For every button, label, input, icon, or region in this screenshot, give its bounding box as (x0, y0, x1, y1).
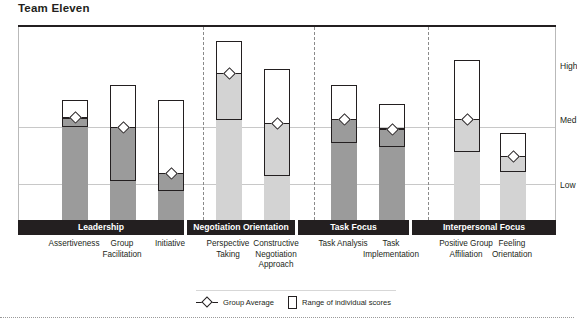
bar-group[interactable] (264, 27, 290, 220)
legend-item-group-average: Group Average (196, 297, 274, 307)
category-label-task-implementation: Task Implementation (363, 239, 419, 260)
bar-group[interactable] (62, 27, 88, 220)
bar-group[interactable] (158, 27, 184, 220)
category-label-initiative: Initiative (142, 239, 198, 250)
cluster-separator-1 (314, 27, 315, 220)
cluster-separator-0 (203, 27, 204, 220)
bar-group[interactable] (216, 27, 242, 220)
bar-group[interactable] (454, 27, 480, 220)
range-box[interactable] (454, 60, 480, 153)
legend-label-range: Range of individual scores (302, 298, 391, 307)
legend-item-range: Range of individual scores (288, 296, 391, 309)
legend-divider (196, 290, 396, 291)
page-bottom-border (0, 317, 574, 318)
category-label-feeling-orientation: Feeling Orientation (484, 239, 540, 260)
cluster-separator-2 (428, 27, 429, 220)
bar-group[interactable] (500, 27, 526, 220)
axis-label-high: High (560, 61, 577, 71)
range-box-icon (288, 296, 297, 309)
cluster-band: LeadershipNegotiation OrientationTask Fo… (18, 220, 556, 235)
axis-label-low: Low (560, 180, 576, 190)
bar-group[interactable] (110, 27, 136, 220)
bar-group[interactable] (379, 27, 405, 220)
category-label-constructive-negotiation-approach: Constructive Negotiation Approach (248, 239, 304, 271)
cluster-title-interpersonal-focus: Interpersonal Focus (412, 220, 556, 235)
cluster-title-leadership: Leadership (18, 220, 184, 235)
plot-area (18, 27, 556, 220)
bar-fill (62, 118, 88, 220)
bar-group[interactable] (331, 27, 357, 220)
page-title: Team Eleven (18, 2, 90, 14)
cluster-title-task-focus: Task Focus (298, 220, 409, 235)
group-average-diamond-icon (196, 297, 218, 307)
cluster-title-negotiation-orientation: Negotiation Orientation (187, 220, 295, 235)
axis-label-med: Med (560, 115, 577, 125)
legend-label-group-average: Group Average (223, 298, 274, 307)
legend: Group Average Range of individual scores (196, 294, 416, 310)
